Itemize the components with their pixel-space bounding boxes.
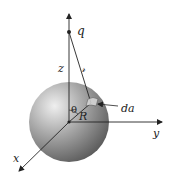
- theta-label: θ: [71, 104, 77, 115]
- origin-point: [67, 120, 70, 123]
- x-axis-label: x: [13, 152, 20, 165]
- y-axis-label: y: [152, 127, 160, 140]
- separation-label: 𝓇: [81, 63, 86, 74]
- radius-label: R: [78, 110, 87, 123]
- z-distance-label: z: [57, 62, 64, 75]
- charge-label: q: [77, 24, 85, 38]
- area-element-label: da: [121, 102, 135, 115]
- sphere-charge-diagram: q z 𝓇 θ R da y x: [0, 0, 172, 188]
